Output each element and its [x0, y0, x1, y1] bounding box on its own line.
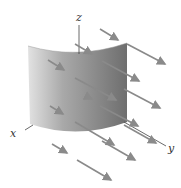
vector-arrow	[100, 29, 118, 40]
cylindrical-surface	[28, 43, 127, 132]
z-axis-label: z	[75, 11, 82, 24]
x-axis	[25, 125, 33, 130]
vector-arrow	[77, 160, 111, 180]
vector-field-diagram: z x y	[0, 0, 181, 188]
vector-arrow	[124, 125, 156, 143]
x-axis-label: x	[10, 127, 17, 140]
vector-arrow	[127, 44, 165, 64]
vector-arrow	[52, 144, 67, 153]
vector-arrow	[124, 89, 160, 108]
y-axis	[124, 122, 166, 146]
y-axis-label: y	[167, 142, 175, 155]
vector-arrow	[102, 141, 135, 160]
